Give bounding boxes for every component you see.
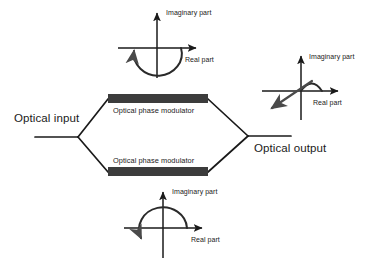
upper-phase-rotation-arc bbox=[134, 48, 182, 76]
output-imaginary-axis-label: Imaginary part bbox=[309, 53, 354, 60]
optical-input-label: Optical input bbox=[14, 112, 79, 124]
upper-imaginary-axis-label: Imaginary part bbox=[166, 9, 211, 16]
lower-real-axis-label: Real part bbox=[191, 236, 220, 243]
output-resultant-vector bbox=[272, 81, 312, 108]
lower-modulator-label: Optical phase modulator bbox=[113, 156, 194, 165]
combiner-upper-branch bbox=[208, 99, 248, 136]
optical-output-label: Optical output bbox=[254, 142, 326, 154]
upper-inset-axes bbox=[118, 13, 196, 78]
splitter-upper-branch bbox=[78, 99, 108, 137]
lower-inset-axes bbox=[124, 192, 202, 258]
diagram-canvas: Optical input Optical output Optical pha… bbox=[0, 0, 365, 274]
upper-real-axis-label: Real part bbox=[185, 56, 214, 63]
output-real-axis-label: Real part bbox=[313, 99, 342, 106]
upper-modulator-bar bbox=[108, 94, 208, 103]
combiner-lower-branch bbox=[208, 136, 248, 172]
upper-modulator-label: Optical phase modulator bbox=[113, 106, 194, 115]
splitter-lower-branch bbox=[78, 137, 108, 172]
lower-modulator-bar bbox=[108, 167, 208, 176]
diagram-vector-layer bbox=[0, 0, 365, 274]
lower-imaginary-axis-label: Imaginary part bbox=[172, 188, 217, 195]
